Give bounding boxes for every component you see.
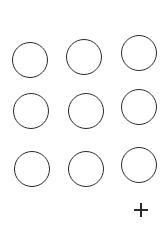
circle-1[interactable] [12, 42, 48, 78]
circle-6[interactable] [121, 89, 157, 125]
circle-5[interactable] [68, 93, 104, 129]
circle-2[interactable] [66, 39, 102, 75]
circle-3[interactable] [121, 35, 157, 71]
circle-8[interactable] [68, 151, 104, 187]
plus-icon[interactable] [134, 203, 148, 217]
circle-4[interactable] [13, 93, 49, 129]
circle-9[interactable] [121, 147, 157, 183]
circle-7[interactable] [14, 151, 50, 187]
